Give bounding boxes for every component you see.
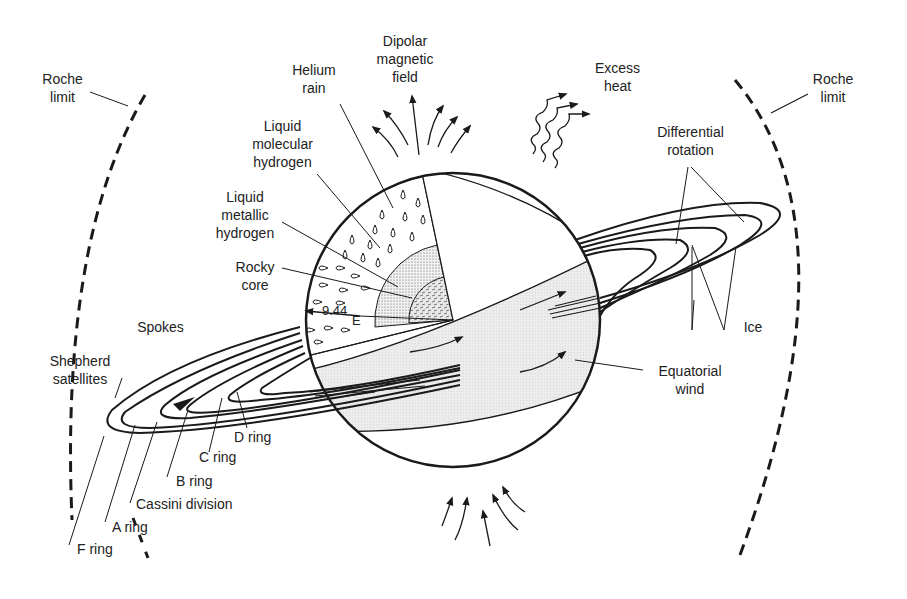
label-b-ring: B ring	[176, 472, 213, 490]
label-helium-rain: Helium rain	[287, 61, 341, 97]
label-radius-value: 9.44	[322, 302, 347, 320]
label-a-ring: A ring	[112, 518, 148, 536]
label-ice: Ice	[738, 318, 768, 336]
label-rocky-core: Rocky core	[230, 258, 280, 294]
rings-right	[575, 203, 780, 316]
label-equatorial-wind: Equatorial wind	[650, 362, 730, 398]
label-radius-unit: E	[352, 312, 361, 330]
label-c-ring: C ring	[199, 448, 236, 466]
label-liquid-molecular-hydrogen: Liquid molecular hydrogen	[245, 117, 320, 171]
roche-limit-left-arc	[71, 95, 145, 520]
label-dipolar-magnetic-field: Dipolar magnetic field	[370, 32, 440, 86]
label-excess-heat: Excess heat	[590, 59, 645, 95]
label-cassini-division: Cassini division	[136, 495, 232, 513]
label-roche-limit-right: Roche limit	[808, 70, 858, 106]
label-roche-limit-left: Roche limit	[40, 70, 85, 106]
label-spokes: Spokes	[133, 318, 188, 336]
label-shepherd-satellites: Shepherd satellites	[45, 352, 115, 388]
label-liquid-metallic-hydrogen: Liquid metallic hydrogen	[210, 188, 280, 242]
label-differential-rotation: Differential rotation	[648, 123, 733, 159]
label-d-ring: D ring	[234, 428, 271, 446]
label-f-ring: F ring	[77, 540, 113, 558]
